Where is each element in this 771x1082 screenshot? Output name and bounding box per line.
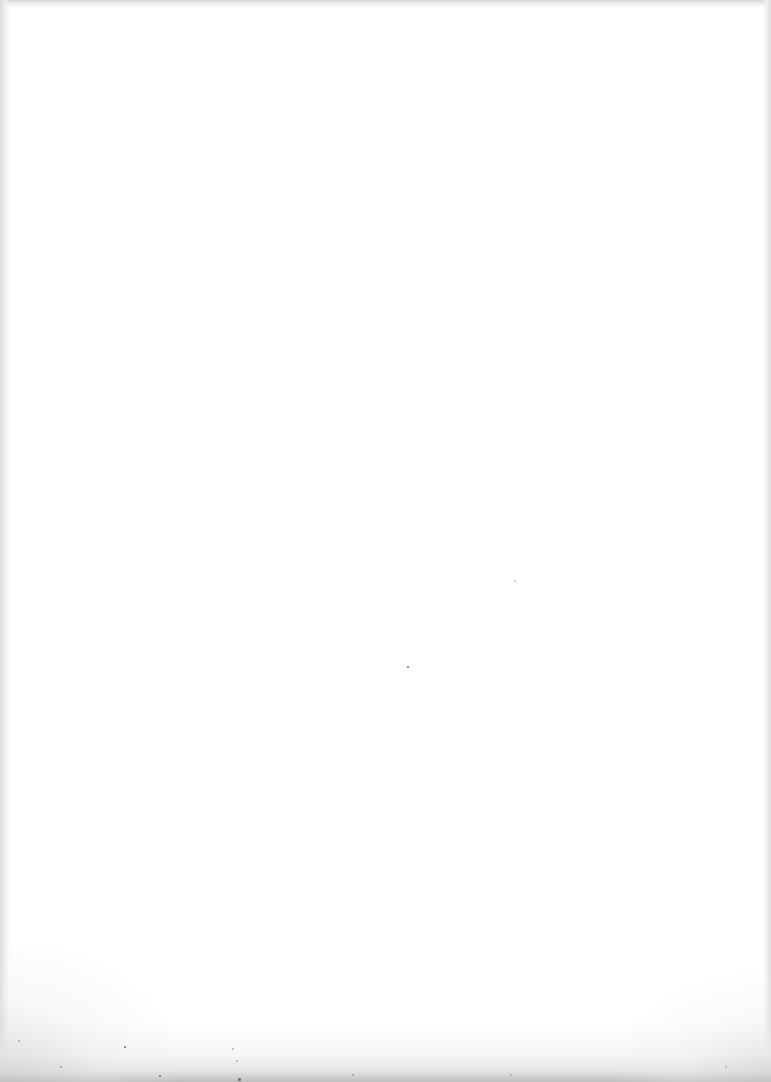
scan-speck: [514, 580, 516, 582]
scan-shadow-bottom-left: [0, 942, 180, 1082]
blank-scanned-page: [0, 0, 771, 1082]
scan-speck: [159, 1075, 161, 1077]
scan-edge-top: [0, 0, 771, 8]
scan-speck: [725, 1066, 727, 1068]
scan-shadow-bottom-right: [611, 972, 771, 1082]
scan-speck: [232, 1048, 234, 1050]
scan-edge-right: [763, 0, 771, 1082]
scan-speck: [236, 1060, 238, 1062]
scan-speck: [510, 1074, 512, 1076]
scan-speck: [352, 1074, 354, 1076]
scan-speck: [407, 666, 409, 668]
scan-speck: [18, 1040, 20, 1042]
scan-speck: [124, 1046, 126, 1048]
scan-speck: [60, 1066, 62, 1068]
scan-speck: [238, 1078, 241, 1081]
scan-edge-left: [0, 0, 10, 1082]
